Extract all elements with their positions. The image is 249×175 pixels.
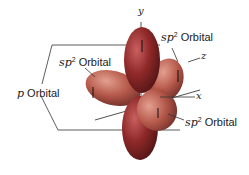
axis-label-y: y bbox=[138, 5, 144, 16]
label-p-orbital: p Orbital bbox=[17, 87, 60, 100]
label-sp2-orbital-top-left: sp2 Orbital bbox=[59, 56, 111, 69]
label-sp2-orbital-top-right: sp2 Orbital bbox=[161, 31, 213, 44]
axis-label-z: z bbox=[201, 50, 206, 61]
label-sp2-orbital-bottom-right: sp2 Orbital bbox=[185, 116, 237, 129]
axis-label-x: x bbox=[196, 90, 202, 101]
p-lobe-upper bbox=[124, 27, 160, 93]
